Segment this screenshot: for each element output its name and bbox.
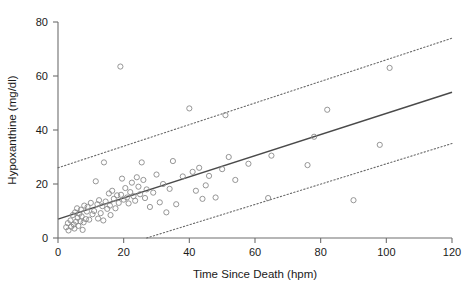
data-point [246,161,251,166]
data-point [213,195,218,200]
x-tick-label: 40 [183,246,195,258]
data-point [190,169,195,174]
data-point [147,204,152,209]
data-point [113,206,118,211]
data-point [269,153,274,158]
data-point [95,216,100,221]
scatter-chart: 020406080100120 020406080 Time Since Dea… [0,0,476,285]
y-axis-title: Hypoxanthine (mg/dl) [6,75,18,184]
data-point [387,65,392,70]
data-point [351,198,356,203]
y-tick-label: 80 [36,16,48,28]
data-point [206,173,211,178]
data-point [220,167,225,172]
data-point [87,217,92,222]
plot-canvas: 020406080100120 020406080 Time Since Dea… [0,0,476,285]
data-point [93,179,98,184]
data-point [223,113,228,118]
data-point [164,210,169,215]
data-point [154,172,159,177]
data-point [106,191,111,196]
data-point [126,201,131,206]
data-point [157,200,162,205]
data-point [167,186,172,191]
data-point [325,107,330,112]
data-point [119,176,124,181]
data-point [174,202,179,207]
data-point [141,177,146,182]
prediction-interval-line [147,144,452,239]
y-tick-label: 0 [42,232,48,244]
data-point [233,177,238,182]
prediction-interval-line [58,38,452,168]
data-point [82,203,87,208]
data-point [108,212,113,217]
data-point [139,160,144,165]
data-point [200,196,205,201]
data-point [305,163,310,168]
x-tick-label: 100 [377,246,395,258]
data-point [133,198,138,203]
data-point [110,188,115,193]
data-point [170,158,175,163]
data-point [142,195,147,200]
x-tick-label: 20 [118,246,130,258]
data-point [80,227,85,232]
data-points [64,64,393,233]
data-point [101,218,106,223]
regression-line [58,92,452,219]
y-tick-label: 40 [36,124,48,136]
data-point [134,175,139,180]
data-point [98,211,103,216]
data-point [187,106,192,111]
data-point [226,154,231,159]
data-point [136,184,141,189]
x-tick-label: 60 [249,246,261,258]
prediction-interval-lines [58,38,452,238]
y-tick-label: 60 [36,70,48,82]
data-point [151,190,156,195]
regression-fit-line [58,92,452,219]
data-point [129,180,134,185]
data-point [203,183,208,188]
data-point [116,200,121,205]
x-tick-label: 80 [315,246,327,258]
x-axis-title: Time Since Death (hpm) [193,268,317,280]
data-point [197,165,202,170]
x-tick-label: 120 [443,246,461,258]
y-tick-labels: 020406080 [36,16,48,244]
data-point [193,188,198,193]
x-tick-label: 0 [55,246,61,258]
data-point [123,185,128,190]
data-point [377,142,382,147]
x-tick-labels: 020406080100120 [55,246,461,258]
data-point [88,200,93,205]
y-tick-label: 20 [36,178,48,190]
data-point [118,64,123,69]
data-point [101,160,106,165]
